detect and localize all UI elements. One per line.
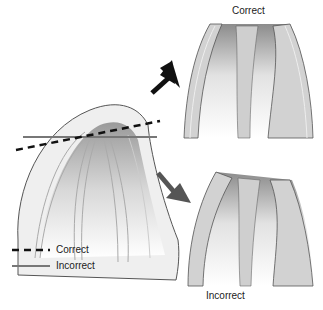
legend-correct-label: Correct	[56, 244, 89, 255]
incorrect-section-illustration	[188, 172, 313, 286]
shoot-tip-illustration	[18, 105, 179, 280]
correct-section-illustration	[184, 24, 313, 138]
diagram-canvas	[0, 0, 323, 310]
arrow-to-correct-icon	[152, 60, 180, 93]
correct-section-label: Correct	[232, 5, 265, 16]
incorrect-section-label: Incorrect	[206, 290, 245, 301]
legend-incorrect-label: Incorrect	[56, 260, 95, 271]
